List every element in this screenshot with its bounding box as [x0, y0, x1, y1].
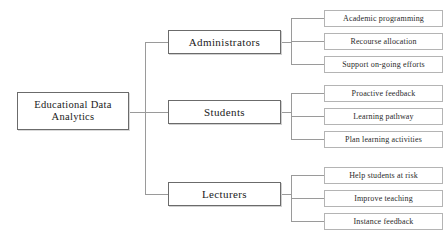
connector-trunk-to-administrators: [145, 42, 168, 43]
node-label: Students: [204, 106, 245, 119]
node-label: Plan learning activities: [345, 135, 422, 144]
connector-lecturers-leaf-1: [291, 175, 324, 176]
node-administrators[interactable]: Administrators: [168, 30, 281, 54]
node-label: Improve teaching: [354, 194, 413, 203]
node-label: Academic programming: [343, 14, 424, 23]
connector-lecturers-to-subtrunk: [281, 194, 291, 195]
node-label: Proactive feedback: [352, 89, 416, 98]
diagram-canvas: Educational Data Analytics Administrator…: [0, 0, 447, 237]
node-help-students-at-risk[interactable]: Help students at risk: [324, 167, 443, 184]
node-students[interactable]: Students: [168, 100, 281, 124]
node-instance-feedback[interactable]: Instance feedback: [324, 213, 443, 230]
node-educational-data-analytics[interactable]: Educational Data Analytics: [17, 92, 129, 130]
connector-students-to-subtrunk: [281, 112, 291, 113]
node-learning-pathway[interactable]: Learning pathway: [324, 108, 443, 125]
connector-lecturers-leaf-3: [291, 221, 324, 222]
connector-trunk-to-lecturers: [145, 194, 168, 195]
connector-administrators-leaf-2: [291, 41, 324, 42]
connector-administrators-leaf-3: [291, 64, 324, 65]
connector-students-leaf-3: [291, 139, 324, 140]
node-label: Instance feedback: [353, 217, 413, 226]
node-label: Recourse allocation: [350, 37, 416, 46]
node-label: Lecturers: [202, 188, 247, 201]
connector-administrators-to-subtrunk: [281, 42, 291, 43]
node-label: Support on-going efforts: [342, 60, 425, 69]
connector-administrators-leaf-1: [291, 18, 324, 19]
node-label: Educational Data Analytics: [34, 99, 111, 123]
node-label: Administrators: [189, 36, 261, 49]
connector-lecturers-leaf-2: [291, 198, 324, 199]
connector-trunk-to-students: [145, 112, 168, 113]
node-lecturers[interactable]: Lecturers: [168, 182, 281, 206]
node-proactive-feedback[interactable]: Proactive feedback: [324, 85, 443, 102]
node-improve-teaching[interactable]: Improve teaching: [324, 190, 443, 207]
connector-main-trunk: [145, 42, 146, 195]
node-support-on-going-efforts[interactable]: Support on-going efforts: [324, 56, 443, 73]
connector-students-leaf-1: [291, 93, 324, 94]
node-plan-learning-activities[interactable]: Plan learning activities: [324, 131, 443, 148]
connector-students-leaf-2: [291, 116, 324, 117]
node-recourse-allocation[interactable]: Recourse allocation: [324, 33, 443, 50]
connector-root-to-trunk: [129, 112, 146, 113]
node-label: Learning pathway: [353, 112, 413, 121]
node-academic-programming[interactable]: Academic programming: [324, 10, 443, 27]
node-label: Help students at risk: [349, 171, 418, 180]
